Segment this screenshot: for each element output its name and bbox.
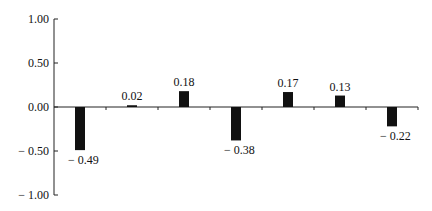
bar (179, 91, 189, 107)
bar (387, 107, 397, 126)
bar (127, 105, 137, 107)
bar-value-label: − 0.38 (224, 143, 255, 157)
bar-value-label: − 0.49 (68, 153, 99, 167)
bar (231, 107, 241, 140)
bar (283, 92, 293, 107)
bar-chart: 1.000.500.00− 0.50− 1.00 − 0.490.020.18−… (0, 0, 432, 211)
y-tick-label: − 1.00 (18, 188, 49, 202)
bar (75, 107, 85, 150)
y-axis: 1.000.500.00− 0.50− 1.00 (18, 12, 58, 202)
y-tick-label: 0.00 (28, 100, 49, 114)
bar-value-label: 0.13 (330, 80, 351, 94)
bar-value-label: 0.17 (278, 76, 299, 90)
y-tick-label: 1.00 (28, 12, 49, 26)
bar-value-label: − 0.22 (380, 129, 411, 143)
y-tick-label: 0.50 (28, 56, 49, 70)
y-tick-label: − 0.50 (18, 144, 49, 158)
bar-value-label: 0.02 (122, 89, 143, 103)
bar-value-label: 0.18 (174, 75, 195, 89)
bar (335, 96, 345, 107)
